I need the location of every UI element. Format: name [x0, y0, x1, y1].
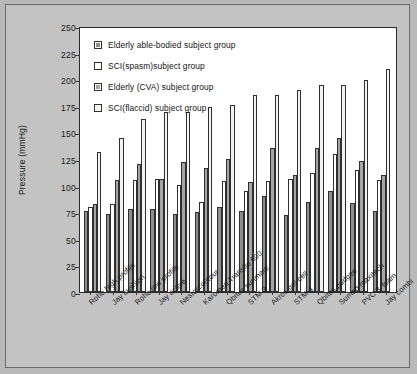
x-axis-tick-mark	[295, 291, 296, 295]
y-axis-tick-mark	[75, 134, 80, 135]
bar-group	[327, 28, 349, 292]
y-axis-tick-label: 50	[50, 236, 76, 246]
bar	[164, 112, 168, 292]
x-axis-tick-mark	[204, 291, 205, 295]
x-axis-tick-mark	[386, 291, 387, 295]
x-axis-tick-mark	[272, 291, 273, 295]
x-axis-tick-mark	[90, 291, 91, 295]
legend-item: Elderly (CVA) subject group	[94, 78, 236, 96]
y-axis-tick-label: 25	[50, 262, 76, 272]
x-axis-tick-mark	[340, 291, 341, 295]
y-axis-title: Pressure (mmHg)	[17, 100, 27, 220]
x-axis-tick-mark	[249, 291, 250, 295]
y-axis-tick-mark	[75, 28, 80, 29]
x-axis-tick-mark	[318, 291, 319, 295]
y-axis-tick-mark	[75, 241, 80, 242]
y-axis-tick-mark	[75, 188, 80, 189]
bar	[341, 85, 345, 292]
chart-frame: Pressure (mmHg) 025507510012515017520022…	[5, 4, 410, 368]
y-axis-tick-label: 0	[50, 289, 76, 299]
y-axis-tick-mark	[75, 108, 80, 109]
y-axis-tick-mark	[75, 161, 80, 162]
legend-item: SCI(flaccid) subject group	[94, 99, 236, 117]
bar	[230, 105, 234, 292]
bar	[141, 119, 145, 292]
legend-item: Elderly able-bodied subject group	[94, 36, 236, 54]
y-axis-tick-mark	[75, 55, 80, 56]
plot-area: 0255075100125150175200225250 Elderly abl…	[79, 27, 397, 293]
bar	[97, 152, 101, 292]
bar	[364, 80, 368, 292]
legend-label: SCI(spasm)subject group	[108, 61, 205, 71]
y-axis-tick-mark	[75, 81, 80, 82]
y-axis-tick-label: 225	[50, 50, 76, 60]
bar	[386, 69, 390, 292]
x-axis-tick-mark	[159, 291, 160, 295]
chart-legend: Elderly able-bodied subject groupSCI(spa…	[94, 36, 236, 120]
y-axis-tick-mark	[75, 214, 80, 215]
bar	[319, 85, 323, 292]
x-axis-tick-mark	[227, 291, 228, 295]
bar-group	[261, 28, 283, 292]
x-axis-tick-mark	[113, 291, 114, 295]
bar	[275, 95, 279, 292]
y-axis-tick-label: 175	[50, 103, 76, 113]
y-axis-tick-label: 75	[50, 209, 76, 219]
y-axis-tick-mark	[75, 267, 80, 268]
bar	[297, 90, 301, 292]
x-axis-tick-mark	[136, 291, 137, 295]
bar-group	[305, 28, 327, 292]
y-axis-tick-label: 100	[50, 183, 76, 193]
legend-swatch-icon	[94, 62, 102, 70]
x-axis-tick-mark	[181, 291, 182, 295]
y-axis-tick-label: 200	[50, 76, 76, 86]
legend-label: SCI(flaccid) subject group	[108, 103, 207, 113]
legend-item: SCI(spasm)subject group	[94, 57, 236, 75]
legend-label: Elderly (CVA) subject group	[108, 82, 213, 92]
legend-swatch-icon	[94, 104, 102, 112]
legend-swatch-icon	[94, 41, 102, 49]
bar-group	[283, 28, 305, 292]
y-axis-tick-label: 125	[50, 156, 76, 166]
legend-label: Elderly able-bodied subject group	[108, 40, 236, 50]
x-axis-labels: Roho high profileJay cushionRoho low pro…	[79, 295, 397, 374]
bar	[186, 112, 190, 292]
y-axis-tick-label: 150	[50, 129, 76, 139]
bar	[208, 107, 212, 292]
y-axis-tick-label: 250	[50, 23, 76, 33]
legend-swatch-icon	[94, 83, 102, 91]
bar-group	[350, 28, 372, 292]
bar-group	[372, 28, 394, 292]
x-axis-tick-mark	[363, 291, 364, 295]
